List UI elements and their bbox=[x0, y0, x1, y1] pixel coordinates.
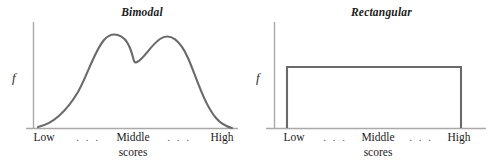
xtick-high-bimodal: High bbox=[211, 131, 234, 143]
chart-panel-rectangular: Rectangular f Low . . . Middle . . . Hig… bbox=[248, 0, 495, 166]
xtick-high-rectangular: High bbox=[448, 131, 471, 143]
chart-panel-bimodal: Bimodal f Low . . . Middle . . . High sc… bbox=[0, 0, 248, 166]
x-axis-label-rectangular: scores bbox=[364, 146, 393, 158]
figure-container: Bimodal f Low . . . Middle . . . High sc… bbox=[0, 0, 495, 166]
y-axis-label-rectangular: f bbox=[256, 70, 260, 86]
xtick-dots-left-rectangular: . . . bbox=[323, 131, 347, 143]
xtick-low-bimodal: Low bbox=[33, 131, 54, 143]
xtick-dots-right-rectangular: . . . bbox=[409, 131, 433, 143]
bimodal-distribution-curve bbox=[38, 35, 232, 128]
y-axis-label-bimodal: f bbox=[12, 70, 16, 86]
xtick-middle-bimodal: Middle bbox=[116, 131, 149, 143]
xtick-low-rectangular: Low bbox=[283, 131, 304, 143]
rectangular-distribution-outline bbox=[287, 67, 461, 128]
xtick-dots-left-bimodal: . . . bbox=[76, 131, 100, 143]
x-axis-label-bimodal: scores bbox=[119, 146, 148, 158]
xtick-dots-right-bimodal: . . . bbox=[167, 131, 191, 143]
xtick-middle-rectangular: Middle bbox=[361, 131, 394, 143]
